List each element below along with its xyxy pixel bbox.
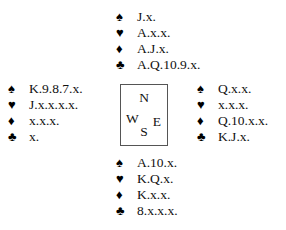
heart-icon: ♥ <box>197 97 210 113</box>
hand-north-spades-row: ♠ J.x. <box>116 9 200 25</box>
bridge-hand-diagram: ♠ J.x. ♥ A.x.x. ♦ A.J.x. ♣ A.Q.10.9.x. ♠… <box>0 0 286 230</box>
hand-east-hearts-row: ♥ x.x.x. <box>197 97 268 113</box>
hand-east-diamonds-row: ♦ Q.10.x.x. <box>197 113 268 129</box>
hand-east: ♠ Q.x.x. ♥ x.x.x. ♦ Q.10.x.x. ♣ K.J.x. <box>197 81 268 145</box>
hand-west: ♠ K.9.8.7.x. ♥ J.x.x.x.x. ♦ x.x.x. ♣ x. <box>8 81 83 145</box>
hand-north-diamonds-row: ♦ A.J.x. <box>116 41 200 57</box>
club-icon: ♣ <box>8 129 21 145</box>
heart-icon: ♥ <box>8 97 21 113</box>
hand-east-spades: Q.x.x. <box>218 81 251 97</box>
hand-south-diamonds: K.x.x. <box>137 187 170 203</box>
hand-north: ♠ J.x. ♥ A.x.x. ♦ A.J.x. ♣ A.Q.10.9.x. <box>116 9 200 73</box>
hand-south-spades-row: ♠ A.10.x. <box>116 155 178 171</box>
hand-north-clubs: A.Q.10.9.x. <box>137 57 200 73</box>
heart-icon: ♥ <box>116 25 129 41</box>
club-icon: ♣ <box>116 57 129 73</box>
hand-south: ♠ A.10.x. ♥ K.Q.x. ♦ K.x.x. ♣ 8.x.x.x. <box>116 155 178 219</box>
hand-east-clubs-row: ♣ K.J.x. <box>197 129 268 145</box>
hand-west-spades: K.9.8.7.x. <box>29 81 83 97</box>
spade-icon: ♠ <box>116 9 129 25</box>
hand-east-diamonds: Q.10.x.x. <box>218 113 268 129</box>
hand-north-diamonds: A.J.x. <box>137 41 169 57</box>
hand-south-clubs-row: ♣ 8.x.x.x. <box>116 203 178 219</box>
diamond-icon: ♦ <box>197 113 210 129</box>
spade-icon: ♠ <box>116 155 129 171</box>
diamond-icon: ♦ <box>116 187 129 203</box>
compass-label-west: W <box>126 112 139 126</box>
hand-north-hearts-row: ♥ A.x.x. <box>116 25 200 41</box>
spade-icon: ♠ <box>197 81 210 97</box>
heart-icon: ♥ <box>116 171 129 187</box>
hand-west-hearts-row: ♥ J.x.x.x.x. <box>8 97 83 113</box>
compass-box: N W E S <box>120 84 168 146</box>
hand-west-clubs: x. <box>29 129 39 145</box>
hand-south-spades: A.10.x. <box>137 155 177 171</box>
hand-south-diamonds-row: ♦ K.x.x. <box>116 187 178 203</box>
diamond-icon: ♦ <box>8 113 21 129</box>
hand-west-clubs-row: ♣ x. <box>8 129 83 145</box>
hand-north-hearts: A.x.x. <box>137 25 170 41</box>
hand-east-clubs: K.J.x. <box>218 129 250 145</box>
compass-label-north: N <box>121 91 167 105</box>
hand-north-clubs-row: ♣ A.Q.10.9.x. <box>116 57 200 73</box>
hand-south-clubs: 8.x.x.x. <box>137 203 178 219</box>
club-icon: ♣ <box>116 203 129 219</box>
diamond-icon: ♦ <box>116 41 129 57</box>
compass-label-south: S <box>121 125 167 139</box>
hand-south-hearts-row: ♥ K.Q.x. <box>116 171 178 187</box>
spade-icon: ♠ <box>8 81 21 97</box>
hand-east-spades-row: ♠ Q.x.x. <box>197 81 268 97</box>
club-icon: ♣ <box>197 129 210 145</box>
hand-east-hearts: x.x.x. <box>218 97 248 113</box>
hand-west-spades-row: ♠ K.9.8.7.x. <box>8 81 83 97</box>
hand-south-hearts: K.Q.x. <box>137 171 173 187</box>
hand-west-diamonds-row: ♦ x.x.x. <box>8 113 83 129</box>
hand-west-hearts: J.x.x.x.x. <box>29 97 78 113</box>
hand-west-diamonds: x.x.x. <box>29 113 59 129</box>
hand-north-spades: J.x. <box>137 9 156 25</box>
